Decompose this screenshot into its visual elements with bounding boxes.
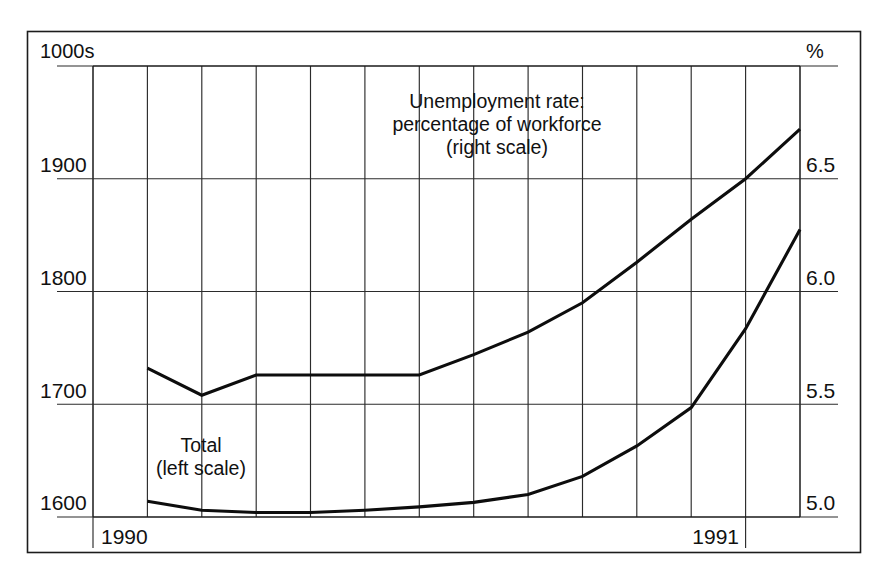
- left-tick-label-1700: 1700: [40, 379, 87, 402]
- right-tick-label-6-0: 6.0: [806, 266, 835, 289]
- annotation-unemployment-line2: percentage of workforce: [392, 113, 601, 135]
- left-tick-label-1600: 1600: [40, 491, 87, 514]
- annotation-total-line2: (left scale): [156, 457, 246, 479]
- right-tick-label-6-5: 6.5: [806, 153, 835, 176]
- chart-svg: 1000s % 1900 1800 1700 1600 6.5 6.0 5.5 …: [0, 0, 889, 580]
- left-tick-label-1900: 1900: [40, 153, 87, 176]
- left-axis-unit-label: 1000s: [40, 40, 95, 62]
- x-tick-label-1990: 1990: [101, 525, 148, 548]
- x-tick-label-1991: 1991: [692, 525, 739, 548]
- left-tick-label-1800: 1800: [40, 266, 87, 289]
- right-axis-unit-label: %: [806, 40, 824, 62]
- right-tick-label-5-5: 5.5: [806, 379, 835, 402]
- chart-figure: 1000s % 1900 1800 1700 1600 6.5 6.0 5.5 …: [0, 0, 889, 580]
- right-tick-label-5-0: 5.0: [806, 491, 835, 514]
- annotation-total-line1: Total: [180, 434, 221, 456]
- annotation-unemployment-line3: (right scale): [446, 136, 548, 158]
- chart-background: [0, 0, 889, 580]
- annotation-unemployment-line1: Unemployment rate:: [409, 90, 585, 112]
